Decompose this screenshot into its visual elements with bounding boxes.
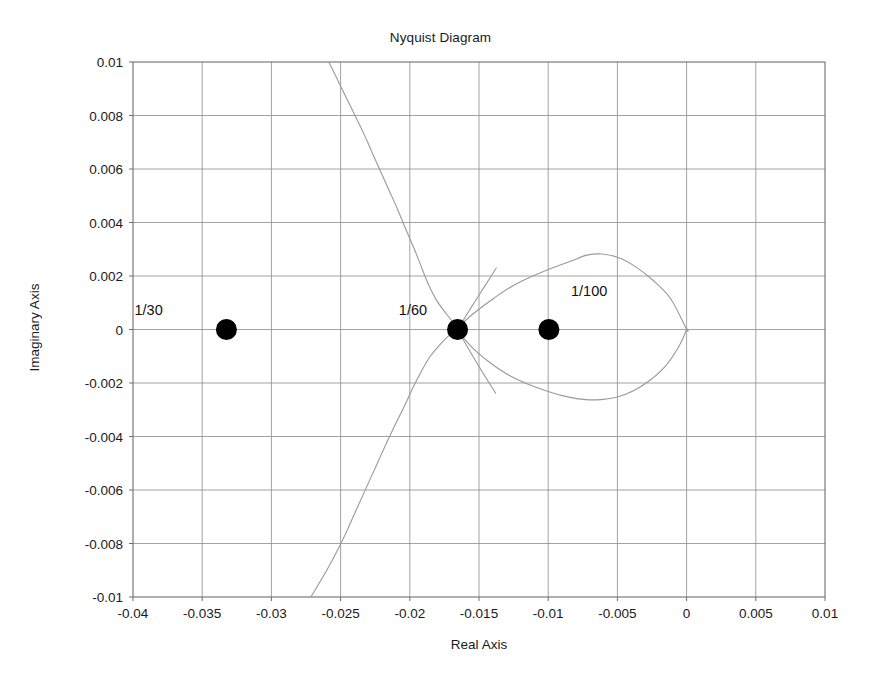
x-tick-label: -0.005 bbox=[598, 606, 636, 621]
nyquist-figure: Nyquist Diagram -0.04-0.035-0.03-0.025-0… bbox=[0, 0, 881, 684]
x-tick-label: -0.04 bbox=[118, 606, 149, 621]
x-tick-label: -0.015 bbox=[460, 606, 498, 621]
x-tick-label: -0.025 bbox=[321, 606, 359, 621]
x-tick-label: 0.005 bbox=[739, 606, 773, 621]
x-tick-label: -0.02 bbox=[394, 606, 425, 621]
y-tick-label: -0.008 bbox=[85, 537, 123, 552]
x-tick-label: -0.035 bbox=[183, 606, 221, 621]
curve-nyquist-upper-branch bbox=[329, 62, 461, 332]
y-axis-label: Imaginary Axis bbox=[27, 248, 42, 408]
data-point-annotation: 1/30 bbox=[135, 302, 163, 318]
y-tick-label: -0.006 bbox=[85, 483, 123, 498]
x-tick-label: -0.03 bbox=[256, 606, 287, 621]
data-point-marker[interactable] bbox=[216, 319, 237, 340]
x-tick-label: -0.01 bbox=[533, 606, 564, 621]
y-tick-label: -0.01 bbox=[92, 590, 123, 605]
y-tick-label: 0 bbox=[115, 323, 123, 338]
y-tick-label: 0.006 bbox=[89, 162, 123, 177]
nyquist-plot-area: -0.04-0.035-0.03-0.025-0.02-0.015-0.01-0… bbox=[0, 0, 881, 684]
x-axis-label: Real Axis bbox=[133, 637, 825, 652]
y-tick-label: 0.004 bbox=[89, 216, 123, 231]
curve-nyquist-loop-tail-lower bbox=[458, 330, 496, 394]
data-point-marker[interactable] bbox=[538, 319, 559, 340]
curve-nyquist-loop-tail-upper bbox=[458, 268, 497, 330]
data-point-marker[interactable] bbox=[447, 319, 468, 340]
y-tick-label: 0.008 bbox=[89, 109, 123, 124]
y-tick-label: 0.002 bbox=[89, 269, 123, 284]
y-tick-label: -0.002 bbox=[85, 376, 123, 391]
data-point-annotation: 1/100 bbox=[571, 283, 607, 299]
x-tick-label: 0.01 bbox=[812, 606, 838, 621]
y-tick-label: 0.01 bbox=[97, 55, 123, 70]
data-point-markers: 1/301/601/100 bbox=[135, 283, 608, 340]
curve-nyquist-lower-branch bbox=[311, 330, 458, 598]
x-tick-label: 0 bbox=[683, 606, 691, 621]
data-point-annotation: 1/60 bbox=[399, 302, 427, 318]
y-tick-label: -0.004 bbox=[85, 430, 124, 445]
